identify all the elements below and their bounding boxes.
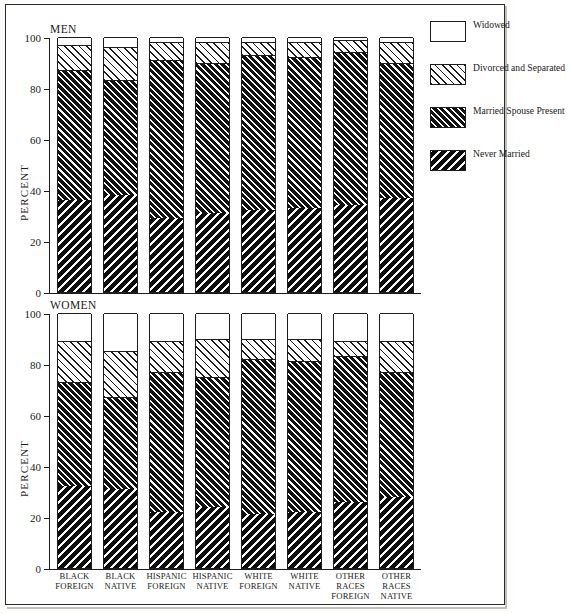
bar-men-5[interactable] <box>287 38 322 293</box>
y-axis-line-women <box>49 314 50 570</box>
y-tick-60 <box>44 416 50 417</box>
segment-men-6-never-married[interactable] <box>334 205 367 292</box>
segment-women-4-divorced-and-separated[interactable] <box>242 339 275 359</box>
segment-men-4-never-married[interactable] <box>242 210 275 292</box>
segment-men-4-divorced-and-separated[interactable] <box>242 42 275 55</box>
segment-women-4-widowed[interactable] <box>242 313 275 339</box>
bar-men-6[interactable] <box>333 38 368 293</box>
x-axis-label-7: OTHERRACESNATIVE <box>369 572 425 601</box>
segment-women-2-divorced-and-separated[interactable] <box>150 341 183 372</box>
segment-women-3-divorced-and-separated[interactable] <box>196 339 229 377</box>
bar-women-4[interactable] <box>241 314 276 569</box>
legend-item-widowed[interactable]: Widowed <box>430 21 508 51</box>
bar-men-2[interactable] <box>149 38 184 293</box>
bar-women-2[interactable] <box>149 314 184 569</box>
segment-men-0-married-spouse-present[interactable] <box>58 70 91 200</box>
segment-men-0-divorced-and-separated[interactable] <box>58 45 91 71</box>
segment-men-0-never-married[interactable] <box>58 200 91 292</box>
x-axis-line-women <box>49 569 421 570</box>
bar-women-0[interactable] <box>57 314 92 569</box>
segment-men-1-divorced-and-separated[interactable] <box>104 47 137 80</box>
segment-men-6-widowed[interactable] <box>334 37 367 40</box>
segment-women-6-divorced-and-separated[interactable] <box>334 341 367 356</box>
segment-women-7-never-married[interactable] <box>380 497 413 568</box>
segment-women-4-married-spouse-present[interactable] <box>242 359 275 515</box>
segment-women-2-never-married[interactable] <box>150 512 183 568</box>
segment-men-3-never-married[interactable] <box>196 213 229 292</box>
segment-men-2-widowed[interactable] <box>150 37 183 42</box>
segment-women-1-widowed[interactable] <box>104 313 137 351</box>
y-tick-0 <box>44 569 50 570</box>
y-axis-line-men <box>49 38 50 294</box>
y-tick-80 <box>44 365 50 366</box>
segment-women-1-married-spouse-present[interactable] <box>104 397 137 489</box>
segment-men-5-divorced-and-separated[interactable] <box>288 42 321 57</box>
y-tick-label-100: 100 <box>25 33 42 44</box>
segment-men-5-widowed[interactable] <box>288 37 321 42</box>
bar-men-7[interactable] <box>379 38 414 293</box>
segment-men-7-widowed[interactable] <box>380 37 413 42</box>
bar-men-4[interactable] <box>241 38 276 293</box>
segment-women-6-widowed[interactable] <box>334 313 367 341</box>
segment-women-7-divorced-and-separated[interactable] <box>380 341 413 372</box>
bar-men-3[interactable] <box>195 38 230 293</box>
segment-men-4-married-spouse-present[interactable] <box>242 55 275 211</box>
segment-women-3-widowed[interactable] <box>196 313 229 339</box>
segment-women-7-widowed[interactable] <box>380 313 413 341</box>
segment-women-5-widowed[interactable] <box>288 313 321 339</box>
segment-men-2-divorced-and-separated[interactable] <box>150 42 183 60</box>
segment-men-7-married-spouse-present[interactable] <box>380 63 413 198</box>
bar-women-1[interactable] <box>103 314 138 569</box>
segment-men-1-married-spouse-present[interactable] <box>104 80 137 195</box>
bar-women-6[interactable] <box>333 314 368 569</box>
legend-label-1: Divorced and Separated <box>473 63 568 74</box>
segment-women-2-widowed[interactable] <box>150 313 183 341</box>
legend-item-married-spouse-present[interactable]: Married Spouse Present <box>430 107 508 137</box>
segment-women-2-married-spouse-present[interactable] <box>150 372 183 512</box>
segment-women-0-divorced-and-separated[interactable] <box>58 341 91 382</box>
segment-men-2-married-spouse-present[interactable] <box>150 60 183 218</box>
bar-women-5[interactable] <box>287 314 322 569</box>
segment-men-1-widowed[interactable] <box>104 37 137 47</box>
segment-men-5-married-spouse-present[interactable] <box>288 57 321 207</box>
y-tick-label-0: 0 <box>36 564 42 575</box>
segment-men-0-widowed[interactable] <box>58 37 91 45</box>
y-tick-40 <box>44 467 50 468</box>
bar-women-3[interactable] <box>195 314 230 569</box>
segment-women-0-widowed[interactable] <box>58 313 91 341</box>
segment-women-5-married-spouse-present[interactable] <box>288 361 321 511</box>
segment-women-6-married-spouse-present[interactable] <box>334 356 367 501</box>
bar-men-1[interactable] <box>103 38 138 293</box>
y-tick-80 <box>44 89 50 90</box>
segment-men-1-never-married[interactable] <box>104 195 137 292</box>
segment-men-7-never-married[interactable] <box>380 198 413 292</box>
segment-men-6-divorced-and-separated[interactable] <box>334 40 367 53</box>
segment-men-3-widowed[interactable] <box>196 37 229 42</box>
segment-women-4-never-married[interactable] <box>242 514 275 568</box>
y-tick-20 <box>44 518 50 519</box>
segment-women-6-never-married[interactable] <box>334 502 367 568</box>
segment-men-2-never-married[interactable] <box>150 218 183 292</box>
bar-women-7[interactable] <box>379 314 414 569</box>
segment-women-3-never-married[interactable] <box>196 507 229 568</box>
segment-women-1-never-married[interactable] <box>104 489 137 568</box>
legend-item-divorced-and-separated[interactable]: Divorced and Separated <box>430 64 508 94</box>
legend-item-never-married[interactable]: Never Married <box>430 150 508 180</box>
bar-men-0[interactable] <box>57 38 92 293</box>
segment-men-6-married-spouse-present[interactable] <box>334 52 367 205</box>
segment-women-5-never-married[interactable] <box>288 512 321 568</box>
segment-men-7-divorced-and-separated[interactable] <box>380 42 413 62</box>
segment-women-7-married-spouse-present[interactable] <box>380 372 413 497</box>
segment-women-0-married-spouse-present[interactable] <box>58 382 91 487</box>
segment-women-0-never-married[interactable] <box>58 486 91 568</box>
legend-swatch-icon-2 <box>430 107 466 128</box>
segment-women-5-divorced-and-separated[interactable] <box>288 339 321 362</box>
segment-men-4-widowed[interactable] <box>242 37 275 42</box>
segment-men-3-divorced-and-separated[interactable] <box>196 42 229 62</box>
segment-men-5-never-married[interactable] <box>288 208 321 292</box>
segment-women-3-married-spouse-present[interactable] <box>196 377 229 507</box>
segment-women-1-divorced-and-separated[interactable] <box>104 351 137 397</box>
segment-men-3-married-spouse-present[interactable] <box>196 63 229 213</box>
panel-title-women: WOMEN <box>50 299 97 311</box>
